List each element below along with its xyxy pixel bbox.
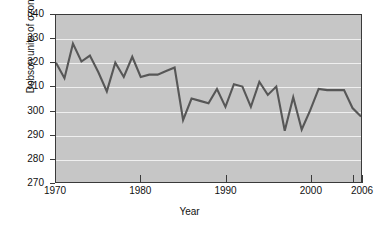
x-tick-mark [311, 175, 312, 183]
y-tick-label: 320 [27, 57, 44, 67]
x-tick-mark [55, 175, 56, 183]
ozone-line-chart-figure: Dobson units of ozone 270280290300310320… [0, 0, 379, 226]
x-tick-label: 1990 [214, 186, 236, 196]
y-tick-label: 310 [27, 81, 44, 91]
y-tick-label: 300 [27, 106, 44, 116]
y-tick-label: 280 [27, 154, 44, 164]
x-tick-mark [140, 175, 141, 183]
x-axis-title: Year [0, 206, 379, 217]
y-tick-label: 330 [27, 33, 44, 43]
y-tick-label: 340 [27, 9, 44, 19]
x-axis: 19701980199020002006 Year [0, 183, 379, 226]
x-tick-mark [362, 175, 363, 183]
x-tick-label: 2006 [351, 186, 373, 196]
x-tick-label: 1970 [44, 186, 66, 196]
x-tick-label: 2000 [300, 186, 322, 196]
series-line [56, 15, 361, 182]
data-polyline [56, 44, 361, 131]
x-tick-label: 1980 [129, 186, 151, 196]
y-tick-label: 290 [27, 130, 44, 140]
plot-area [55, 14, 362, 183]
x-tick-mark [353, 175, 354, 183]
x-tick-mark [226, 175, 227, 183]
